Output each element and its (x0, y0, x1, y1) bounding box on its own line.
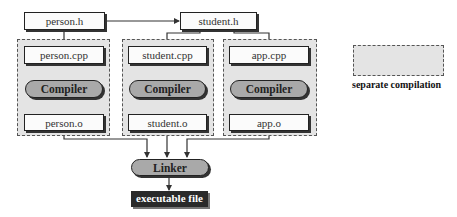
executable-file[interactable]: executable file (131, 191, 208, 207)
compiler-app[interactable]: Compiler (230, 80, 308, 98)
object-file-person-o[interactable]: person.o (24, 114, 104, 131)
object-file-app-o[interactable]: app.o (229, 114, 309, 131)
object-file-student-o[interactable]: student.o (128, 114, 207, 131)
linker[interactable]: Linker (131, 159, 209, 176)
legend-swatch (353, 45, 444, 76)
compiler-person[interactable]: Compiler (25, 80, 103, 98)
header-file-person-h[interactable]: person.h (24, 12, 105, 30)
compiler-student[interactable]: Compiler (129, 80, 206, 98)
source-file-app-cpp[interactable]: app.cpp (229, 46, 309, 64)
legend-label: separate compilation (352, 79, 441, 90)
source-file-person-cpp[interactable]: person.cpp (24, 46, 104, 64)
source-file-student-cpp[interactable]: student.cpp (128, 46, 207, 64)
header-file-student-h[interactable]: student.h (180, 12, 257, 30)
